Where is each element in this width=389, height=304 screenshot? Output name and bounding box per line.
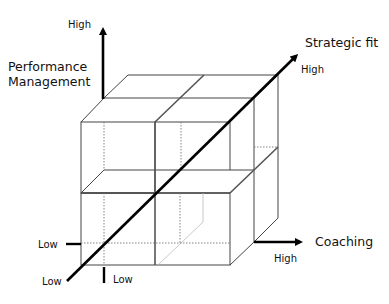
performance-title-line2: Management [8,74,90,89]
strategic-fit-title: Strategic fit [305,35,378,50]
coaching-title: Coaching [315,234,373,249]
coaching-low-label: Low [113,274,133,285]
lower-right-bottom-diagonal [230,242,254,265]
upper-left-inner-diagonal [81,170,104,193]
top-back-divider [180,75,204,98]
strategic-fit-low-label: Low [42,276,62,287]
coaching-high-label: High [274,253,297,264]
performance-title-line1: Performance [8,59,88,74]
cube-matrix-diagram: High Performance Management Low Strategi… [0,0,389,304]
top-front-left-edge [81,98,104,122]
strategic-fit-high-label: High [301,64,324,75]
performance-high-label: High [68,19,91,30]
top-front-divider [155,98,180,122]
lower-right-inner-diagonal [158,222,203,265]
performance-low-label: Low [38,239,58,250]
right-panel-bottom-diagonal [254,218,278,242]
strategic-fit-axis-arrow [67,56,296,281]
